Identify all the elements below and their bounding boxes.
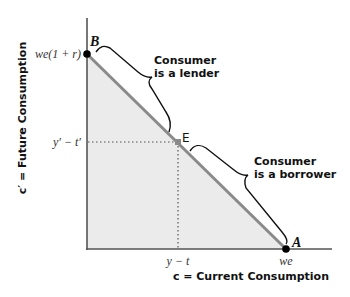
- budget-constraint-diagram: B E A we(1 + r) y′ − t′ y − t we Consume…: [0, 0, 350, 297]
- y-axis-title: c′ = Future Consumption: [16, 42, 29, 195]
- lender-annotation-line1: Consumer: [154, 54, 217, 67]
- point-a: [282, 245, 290, 253]
- x-axis-title: c = Current Consumption: [173, 270, 329, 283]
- point-b-label: B: [89, 34, 99, 49]
- borrower-annotation-line1: Consumer: [254, 155, 317, 168]
- x-intercept-label: we: [279, 254, 293, 268]
- y-endowment-label: y′ − t′: [52, 135, 81, 149]
- point-a-label: A: [291, 235, 301, 250]
- y-intercept-label: we(1 + r): [35, 47, 81, 61]
- point-b: [83, 50, 91, 58]
- point-e-label: E: [182, 131, 190, 145]
- point-e: [175, 139, 181, 145]
- lender-annotation-line2: is a lender: [154, 67, 220, 80]
- x-endowment-label: y − t: [166, 254, 190, 268]
- borrower-annotation-line2: is a borrower: [254, 168, 337, 181]
